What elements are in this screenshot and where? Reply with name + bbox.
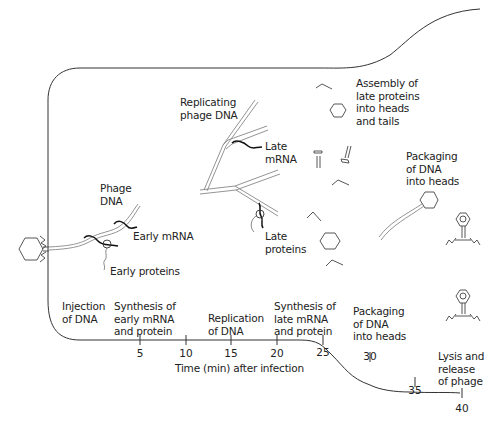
packaging-phage-head <box>379 192 438 240</box>
assembly-label: Assembly of late proteins into heads and… <box>356 77 419 127</box>
phage-dna-label: Phage DNA <box>100 182 132 207</box>
phage-head-icon-2 <box>320 233 340 249</box>
early-proteins-label: Early proteins <box>110 265 180 278</box>
replicating-dna-bottom <box>200 170 280 216</box>
released-phage-icon <box>446 290 480 321</box>
stage-lysis-label: Lysis and release of phage <box>438 350 484 388</box>
phage-tail-icon-2 <box>341 146 351 163</box>
stage-injection-label: Injection of DNA <box>62 300 105 325</box>
late-protein-chain <box>251 216 256 232</box>
stage-early-synthesis-label: Synthesis of early mRNA and protein <box>114 300 176 338</box>
tick-35: 35 <box>405 384 425 396</box>
time-axis-label: Time (min) after infection <box>175 362 304 375</box>
tail-fiber-icon-2 <box>332 180 349 185</box>
phage-dna-strand <box>48 204 140 250</box>
diagram-graphics <box>0 0 491 423</box>
packaging-label: Packaging of DNA into heads <box>406 150 459 188</box>
tick-5: 5 <box>130 347 150 359</box>
tick-30: 30 <box>360 350 380 362</box>
tail-fiber-icon <box>316 84 332 89</box>
tail-fiber-icon-3 <box>307 212 321 221</box>
phage-components <box>307 84 351 266</box>
tick-20: 20 <box>267 347 287 359</box>
early-mrna-label: Early mRNA <box>133 230 193 243</box>
tick-25: 25 <box>313 346 333 358</box>
complete-phage-icon <box>446 213 480 245</box>
tick-40: 40 <box>452 402 472 414</box>
replicating-phage-dna-label: Replicating phage DNA <box>180 96 238 121</box>
stage-packaging-label: Packaging of DNA into heads <box>353 305 406 343</box>
stage-late-synthesis-label: Synthesis of late mRNA and protein <box>274 300 336 338</box>
phage-head-icon <box>330 104 346 117</box>
tick-10: 10 <box>176 347 196 359</box>
phage-tail-icon <box>314 151 322 168</box>
tick-15: 15 <box>221 347 241 359</box>
injecting-phage-icon <box>19 236 49 262</box>
phage-lytic-cycle-diagram: Replicating phage DNA Assembly of late p… <box>0 0 491 423</box>
tail-fiber-icon-4 <box>326 260 343 266</box>
late-mrna-label: Late mRNA <box>265 140 297 165</box>
stage-replication-label: Replication of DNA <box>208 312 264 337</box>
early-protein-chain <box>104 248 107 270</box>
late-proteins-label: Late proteins <box>265 230 306 255</box>
